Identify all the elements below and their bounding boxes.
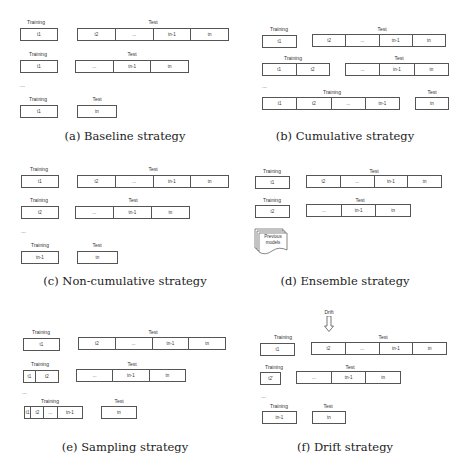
test-label: Test <box>92 96 101 102</box>
cell-t1: t1 <box>261 344 294 355</box>
training-label: Training <box>29 51 47 57</box>
cell-tn1: tn-1 <box>342 205 377 216</box>
test-label: Test <box>127 361 136 367</box>
test-label: Test <box>369 168 378 174</box>
cell-tn: tn <box>408 176 441 187</box>
cell-t2: t2 <box>256 206 289 217</box>
test-label: Test <box>355 197 364 203</box>
test-label: Test <box>114 398 123 404</box>
cell-t1: t1 <box>256 177 289 188</box>
cell-tn1: tn-1 <box>380 64 414 75</box>
test-label: Test <box>148 19 157 25</box>
training-label: Training <box>265 364 283 370</box>
test-label: Test <box>323 403 332 409</box>
cell-t1: t1 <box>263 64 297 75</box>
cell-t1: t1 <box>24 339 59 350</box>
cell-t1: t1 <box>21 29 57 40</box>
previous-models-label: Previous models <box>260 234 286 246</box>
cell-tn: tn <box>413 343 446 354</box>
training-block: tn-1 <box>21 251 59 264</box>
training-label: Training <box>263 197 281 203</box>
cell-t2: t2 <box>307 176 341 187</box>
cell-tn: tn <box>366 372 400 383</box>
cell-tn1: tn-1 <box>114 207 152 218</box>
cell-t2: t2 <box>31 407 44 418</box>
test-label: Test <box>394 55 403 61</box>
training-label: Training <box>32 329 50 335</box>
test-block: tn <box>77 251 118 264</box>
training-label: Training <box>31 242 49 248</box>
cell-tn: tn <box>191 176 228 187</box>
training-block: t1 <box>255 176 290 189</box>
cell-dots: ... <box>346 343 380 354</box>
cell-tn: tn <box>415 64 448 75</box>
cell-dots: ... <box>44 407 57 418</box>
cell-tn: tn <box>376 205 410 216</box>
cell-t2: t2 <box>312 343 346 354</box>
cell-tn: tn <box>151 61 188 72</box>
test-block: t2 ... tn-1 tn <box>78 337 226 350</box>
cell-t2: t2 <box>297 64 330 75</box>
cell-tn1: tn-1 <box>22 252 58 263</box>
cell-dots: ... <box>307 205 342 216</box>
training-block: t1 t2 <box>262 63 330 76</box>
test-block: t2 ... tn-1 tn <box>77 175 229 188</box>
training-block: t1 <box>260 343 295 356</box>
test-label: Test <box>378 334 387 340</box>
test-label: Test <box>148 166 157 172</box>
training-block: t1 <box>20 105 58 118</box>
cell-t2: t2 <box>22 207 58 218</box>
cell-dots: ... <box>332 98 366 109</box>
ellipsis: ... <box>20 82 25 88</box>
cell-t2: t2 <box>297 98 331 109</box>
test-block: tn <box>312 411 346 424</box>
cell-dots: ... <box>346 64 380 75</box>
training-label: Training <box>263 168 281 174</box>
test-block: tn <box>101 406 137 419</box>
cell-dots: ... <box>346 35 379 46</box>
cell-dots: ... <box>116 176 154 187</box>
cell-t2: t2 <box>78 29 116 40</box>
cell-tn1: tn-1 <box>380 343 414 354</box>
drift-arrow-icon <box>324 316 334 332</box>
training-label: Training <box>270 26 288 32</box>
cell-tn1: tn-1 <box>380 35 413 46</box>
training-block: t1 <box>262 35 297 48</box>
cell-tn1: tn-1 <box>154 176 192 187</box>
cell-dots: ... <box>341 176 375 187</box>
training-label: Training <box>27 19 45 25</box>
training-block: t1 t2 <box>23 370 59 383</box>
cell-dots: ... <box>116 338 153 349</box>
cell-tn: tn <box>416 98 448 109</box>
cell-tn: tn <box>150 370 185 381</box>
ellipsis: ... <box>22 389 27 395</box>
test-block: t2 ... tn-1 tn <box>306 175 442 188</box>
cell-tn1: tn-1 <box>154 29 192 40</box>
training-label: Training <box>274 334 292 340</box>
cell-dots: ... <box>116 29 154 40</box>
test-label: Test <box>148 329 157 335</box>
cell-t2: t2 <box>313 35 346 46</box>
training-block: t1 <box>20 60 58 73</box>
test-block: t2 ... tn-1 tn <box>77 28 229 41</box>
cell-tn: tn <box>152 207 189 218</box>
test-label: Test <box>345 364 354 370</box>
caption-a: (a) Baseline strategy <box>65 129 186 143</box>
cell-t1: t1 <box>21 106 57 117</box>
caption-b: (b) Cumulative strategy <box>276 129 414 143</box>
cell-t1: t1 <box>24 371 36 382</box>
cell-tn: tn <box>191 29 228 40</box>
cell-dots: ... <box>76 61 114 72</box>
training-label: Training <box>31 361 49 367</box>
test-block: ... tn-1 tn <box>76 369 186 382</box>
test-label: Test <box>377 26 386 32</box>
test-block: t2 ... tn-1 tn <box>312 34 446 47</box>
test-block: tn <box>415 97 449 110</box>
test-block: t2 ... tn-1 tn <box>311 342 447 355</box>
training-block: t2' <box>260 372 281 385</box>
training-block: t1 <box>21 175 59 188</box>
cell-t2: t2 <box>79 338 116 349</box>
ellipsis: ... <box>262 83 267 89</box>
cell-t1: t1 <box>263 36 296 47</box>
training-label: Training <box>29 96 47 102</box>
